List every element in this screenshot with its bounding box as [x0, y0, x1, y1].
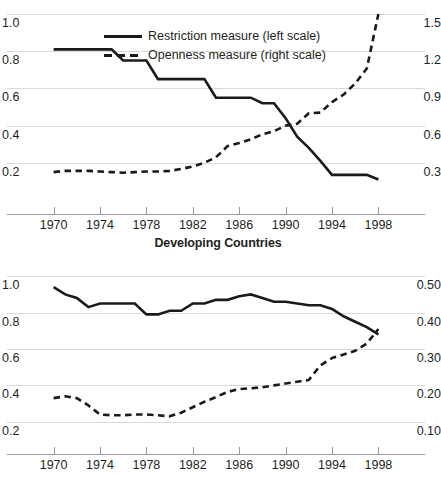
- y-axis-left-tick-label: 0.8: [2, 54, 36, 66]
- plot-area-bottom: 1.00.80.60.40.20.500.400.300.200.1019701…: [42, 258, 390, 440]
- y-axis-left-tick-label: 0.6: [2, 91, 36, 103]
- x-axis-tick-label: 1998: [348, 218, 408, 232]
- y-axis-left-tick-label: 1.0: [2, 17, 36, 29]
- x-axis-tick: [146, 207, 147, 214]
- y-axis-right-tick-label: 0.9: [397, 91, 441, 103]
- x-axis-tick: [54, 447, 55, 454]
- y-axis-right-tick-label: 0.3: [397, 166, 441, 178]
- y-axis-left-tick-label: 0.2: [2, 425, 36, 437]
- y-axis-left-tick-label: 0.8: [2, 316, 36, 328]
- y-axis-right-tick-label: 0.50: [397, 279, 441, 291]
- y-axis-left-tick-label: 1.0: [2, 279, 36, 291]
- x-axis-tick: [100, 207, 101, 214]
- x-axis-tick: [378, 447, 379, 454]
- x-axis-tick: [193, 447, 194, 454]
- y-axis-right-tick-label: 0.40: [397, 316, 441, 328]
- x-axis-tick: [239, 447, 240, 454]
- x-axis-tick: [332, 207, 333, 214]
- panel-top: 1.00.80.60.40.21.51.20.90.60.31970197419…: [0, 0, 436, 232]
- y-axis-left-tick-label: 0.6: [2, 352, 36, 364]
- x-axis-tick: [100, 447, 101, 454]
- panel-title-developing-countries: Developing Countries: [0, 236, 436, 250]
- x-axis-line: [7, 214, 425, 215]
- series-line-openness: [54, 14, 379, 173]
- panel-bottom: Developing Countries 1.00.80.60.40.20.50…: [0, 232, 436, 485]
- x-axis-tick: [378, 207, 379, 214]
- series-lines-top: [42, 14, 390, 200]
- x-axis-tick: [286, 447, 287, 454]
- x-axis-tick: [146, 447, 147, 454]
- y-axis-left-tick-label: 0.4: [2, 129, 36, 141]
- series-line-restriction: [54, 49, 379, 179]
- x-axis-tick-label: 1998: [348, 458, 408, 472]
- series-line-openness: [54, 329, 379, 416]
- plot-area-top: 1.00.80.60.40.21.51.20.90.60.31970197419…: [42, 14, 390, 200]
- x-axis-tick: [239, 207, 240, 214]
- x-axis-tick: [193, 207, 194, 214]
- series-line-restriction: [54, 287, 379, 334]
- x-axis-tick: [54, 207, 55, 214]
- y-axis-right-tick-label: 0.20: [397, 388, 441, 400]
- x-axis-tick: [286, 207, 287, 214]
- y-axis-right-tick-label: 1.2: [397, 54, 441, 66]
- series-lines-bottom: [42, 258, 390, 440]
- x-axis-tick: [332, 447, 333, 454]
- y-axis-right-tick-label: 1.5: [397, 17, 441, 29]
- y-axis-left-tick-label: 0.2: [2, 166, 36, 178]
- y-axis-left-tick-label: 0.4: [2, 388, 36, 400]
- y-axis-right-tick-label: 0.10: [397, 425, 441, 437]
- x-axis-line: [7, 454, 425, 455]
- y-axis-right-tick-label: 0.30: [397, 352, 441, 364]
- y-axis-right-tick-label: 0.6: [397, 129, 441, 141]
